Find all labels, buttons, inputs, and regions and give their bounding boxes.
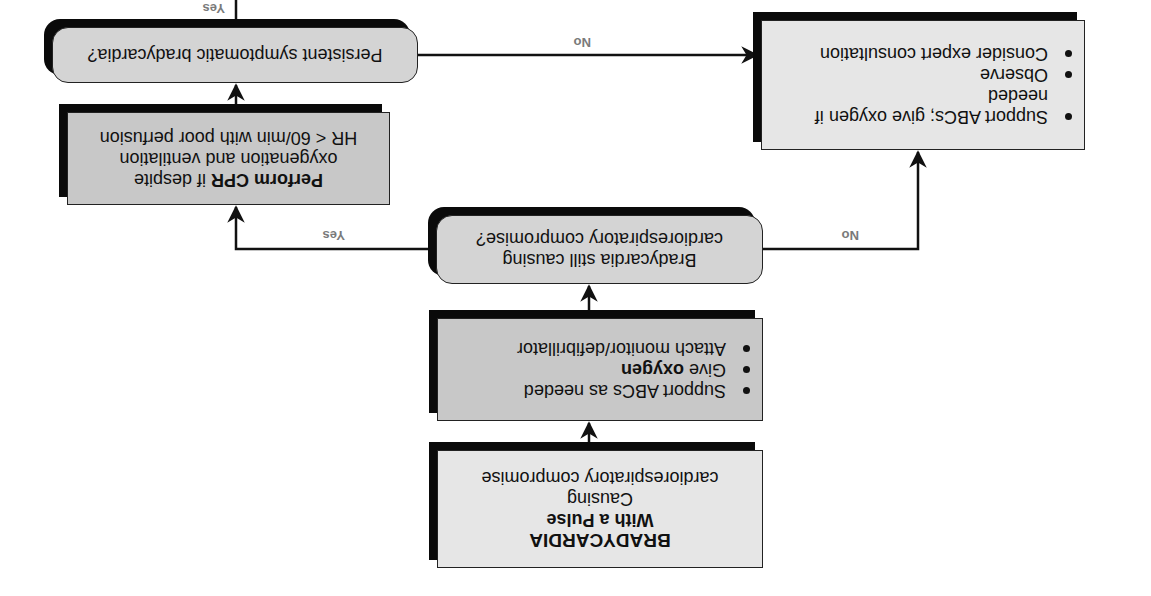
decision2-text: Persistent symptomatic bradycardia? (87, 45, 382, 66)
label-decision1-no: No (842, 228, 859, 243)
initial-actions-list: Support ABCs as needed Give oxygen Attac… (438, 338, 762, 401)
perform-cpr-box: Perform CPR if despite oxygenation and v… (67, 112, 390, 205)
observe-list: Support ABCs; give oxygen if needed Obse… (762, 43, 1084, 127)
decision1-line-1: Bradycardia still causing (502, 250, 696, 271)
decision1-line-2: cardiorespiratory compromise? (476, 229, 723, 250)
cpr-line-3: HR < 60/min with poor perfusion (100, 127, 358, 148)
title-line-3: Causing (567, 488, 633, 509)
flowchart-canvas: BRADYCARDIA With a Pulse Causing cardior… (0, 0, 1151, 596)
observe-box: Support ABCs; give oxygen if needed Obse… (761, 20, 1085, 150)
bradycardia-title-box: BRADYCARDIA With a Pulse Causing cardior… (437, 450, 763, 568)
initial-actions-box: Support ABCs as needed Give oxygen Attac… (437, 318, 763, 421)
label-decision1-yes: Yes (323, 228, 345, 243)
title-line-1: BRADYCARDIA (529, 530, 670, 551)
decision-still-compromised: Bradycardia still causing cardiorespirat… (436, 215, 763, 284)
action-item: Give oxygen (438, 359, 726, 380)
action-item: Attach monitor/defibrillator (438, 338, 726, 359)
cpr-line-2: oxygenation and ventilation (119, 148, 337, 169)
action-item: Support ABCs as needed (438, 380, 726, 401)
observe-item: Consider expert consultation (802, 43, 1048, 64)
cpr-line-1: Perform CPR if despite (134, 169, 323, 190)
observe-item: Observe (802, 64, 1048, 85)
title-line-4: cardiorespiratory compromise (481, 467, 718, 488)
label-decision2-no: No (574, 35, 591, 50)
arrow-decision1-no (763, 152, 918, 249)
title-line-2: With a Pulse (547, 509, 654, 530)
label-decision2-yes: Yes (203, 1, 225, 16)
observe-item: Support ABCs; give oxygen if needed (802, 85, 1048, 127)
decision-persistent-bradycardia: Persistent symptomatic bradycardia? (52, 27, 418, 83)
